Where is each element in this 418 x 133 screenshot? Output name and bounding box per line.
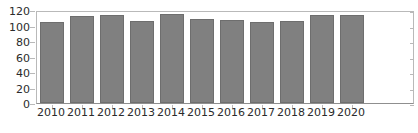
- x-tick-label: 2015: [187, 106, 215, 119]
- y-tick-label: 40: [16, 68, 30, 79]
- y-tick-label: 0: [23, 99, 30, 110]
- y-tick-label: 100: [9, 21, 30, 32]
- y-tick-label: 60: [16, 52, 30, 63]
- y-tick-label: 120: [9, 6, 30, 17]
- x-tick-label: 2020: [337, 106, 365, 119]
- bar: [160, 14, 184, 103]
- y-tick-mark: [30, 27, 35, 28]
- x-tick-label: 2019: [307, 106, 335, 119]
- y-tick-mark: [30, 11, 35, 12]
- bar: [220, 20, 244, 103]
- x-tick-label: 2013: [127, 106, 155, 119]
- y-tick-mark: [30, 58, 35, 59]
- bars-layer: [37, 12, 413, 103]
- y-tick-mark-right: [410, 43, 414, 44]
- x-tick-label: 2016: [217, 106, 245, 119]
- bar: [190, 19, 214, 103]
- y-tick-mark-right: [410, 59, 414, 60]
- y-axis-tick-labels: 020406080100120: [0, 0, 33, 133]
- x-tick-label: 2017: [247, 106, 275, 119]
- y-tick-mark-right: [410, 90, 414, 91]
- x-tick-label: 2010: [37, 106, 65, 119]
- x-tick-label: 2018: [277, 106, 305, 119]
- y-tick-mark-right: [410, 28, 414, 29]
- x-tick-label: 2012: [97, 106, 125, 119]
- plot-area: [36, 11, 414, 104]
- bar-chart: 020406080100120 201020112012201320142015…: [0, 0, 418, 133]
- bar: [70, 16, 94, 103]
- y-tick-mark: [30, 42, 35, 43]
- y-tick-mark: [30, 104, 35, 105]
- y-tick-label: 80: [16, 37, 30, 48]
- x-axis-tick-labels: 2010201120122013201420152016201720182019…: [36, 106, 414, 126]
- bar: [250, 22, 274, 103]
- x-tick-label: 2011: [67, 106, 95, 119]
- y-tick-mark: [30, 89, 35, 90]
- bar: [310, 15, 334, 103]
- bar: [130, 21, 154, 103]
- y-tick-mark-right: [410, 12, 414, 13]
- bar: [280, 21, 304, 103]
- bar: [340, 15, 364, 103]
- y-tick-mark-right: [410, 74, 414, 75]
- bar: [100, 15, 124, 103]
- y-tick-label: 20: [16, 83, 30, 94]
- bar: [40, 22, 64, 103]
- x-tick-label: 2014: [157, 106, 185, 119]
- y-tick-mark: [30, 73, 35, 74]
